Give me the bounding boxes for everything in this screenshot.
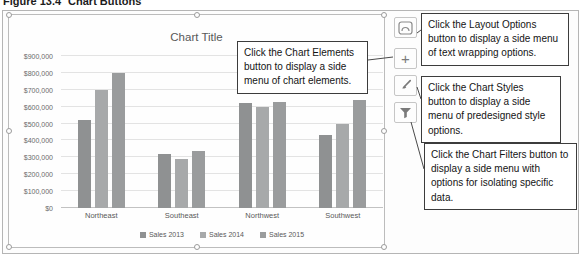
bar-sales-2014-northeast[interactable] [95, 90, 108, 208]
x-axis-category-label: Northwest [222, 211, 303, 220]
bar-sales-2014-southeast[interactable] [175, 159, 188, 208]
y-axis-tick-label: $700,000 [7, 87, 53, 94]
legend-label: Sales 2014 [209, 231, 244, 238]
x-axis-category-label: Southwest [303, 211, 384, 220]
bar-sales-2014-southwest[interactable] [336, 124, 349, 208]
y-axis-tick-label: $0 [7, 205, 53, 212]
legend-label: Sales 2015 [269, 231, 304, 238]
selection-handle[interactable] [6, 12, 12, 18]
bar-sales-2014-northwest[interactable] [256, 107, 269, 208]
figure-heading: Figure 13.4Chart Buttons [3, 0, 141, 7]
bar-sales-2015-northeast[interactable] [112, 73, 125, 208]
figure-canvas: Figure 13.4Chart Buttons Chart Title $0$… [0, 0, 581, 259]
bar-sales-2015-southwest[interactable] [353, 100, 366, 208]
legend-item-sales-2013[interactable]: Sales 2013 [140, 231, 184, 238]
y-axis-tick-label: $400,000 [7, 137, 53, 144]
y-axis-tick-label: $200,000 [7, 171, 53, 178]
selection-handle[interactable] [194, 244, 200, 250]
legend-swatch-icon [200, 232, 206, 238]
layout-options-button[interactable] [394, 17, 417, 38]
figure-title: Chart Buttons [68, 0, 141, 7]
y-axis-tick-label: $900,000 [7, 53, 53, 60]
selection-handle[interactable] [381, 12, 387, 18]
legend-swatch-icon [260, 232, 266, 238]
y-axis-tick-label: $500,000 [7, 121, 53, 128]
selection-handle[interactable] [381, 128, 387, 134]
callout-layout-options: Click the Layout Options button to displ… [421, 13, 569, 66]
bar-group-southeast [142, 56, 223, 208]
legend-swatch-icon [140, 232, 146, 238]
bar-sales-2013-northeast[interactable] [78, 120, 91, 208]
y-axis: $0$100,000$200,000$300,000$400,000$500,0… [11, 56, 57, 208]
y-axis-tick-label: $600,000 [7, 104, 53, 111]
bar-sales-2013-southwest[interactable] [319, 135, 332, 208]
bar-group-northeast [61, 56, 142, 208]
x-axis-category-label: Southeast [142, 211, 223, 220]
legend-item-sales-2015[interactable]: Sales 2015 [260, 231, 304, 238]
selection-handle[interactable] [6, 128, 12, 134]
y-axis-tick-label: $800,000 [7, 70, 53, 77]
callout-chart-styles: Click the Chart Styles button to display… [421, 76, 561, 143]
y-axis-tick-label: $100,000 [7, 188, 53, 195]
callout-chart-elements: Click the Chart Elements button to displ… [237, 41, 368, 94]
chart-filters-button[interactable] [394, 102, 417, 123]
x-axis-category-label: Northeast [61, 211, 142, 220]
x-axis: NortheastSoutheastNorthwestSouthwest [61, 211, 383, 220]
plus-icon: + [401, 51, 410, 66]
callout-chart-filters: Click the Chart Filters button to displa… [424, 143, 577, 210]
selection-handle[interactable] [194, 12, 200, 18]
funnel-icon [399, 107, 412, 119]
chart-elements-button[interactable]: + [394, 48, 417, 69]
chart-legend[interactable]: Sales 2013Sales 2014Sales 2015 [61, 231, 383, 238]
bar-sales-2015-southeast[interactable] [192, 151, 205, 208]
bar-sales-2013-northwest[interactable] [239, 103, 252, 208]
legend-item-sales-2014[interactable]: Sales 2014 [200, 231, 244, 238]
bar-sales-2013-southeast[interactable] [158, 154, 171, 208]
layout-options-icon [398, 21, 413, 35]
y-axis-tick-label: $300,000 [7, 154, 53, 161]
paintbrush-icon [399, 79, 412, 92]
bar-sales-2015-northwest[interactable] [273, 102, 286, 208]
figure-number-label: Figure 13.4 [3, 0, 61, 7]
selection-handle[interactable] [6, 244, 12, 250]
legend-label: Sales 2013 [149, 231, 184, 238]
chart-styles-button[interactable] [394, 75, 417, 96]
selection-handle[interactable] [381, 244, 387, 250]
